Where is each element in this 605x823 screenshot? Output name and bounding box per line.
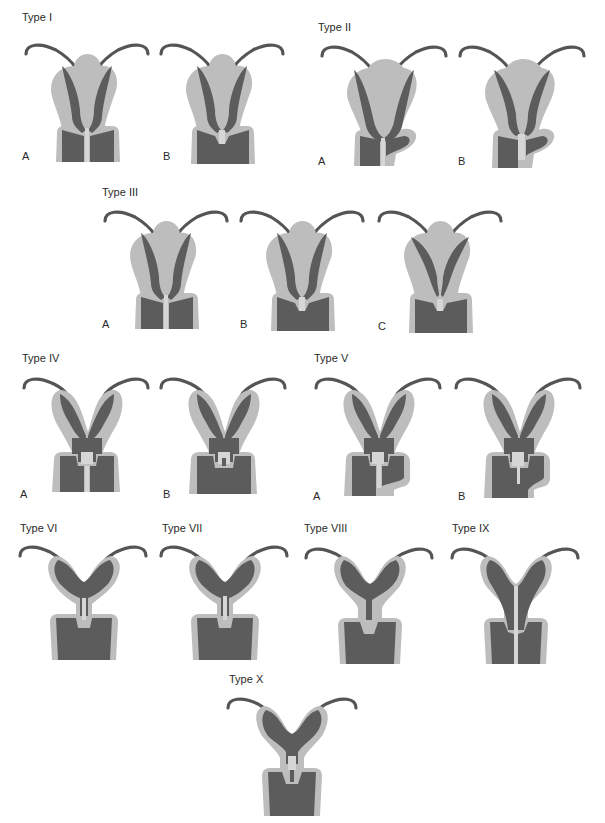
type-4b-label: B bbox=[163, 488, 170, 500]
type-4-title: Type IV bbox=[22, 352, 59, 364]
type-2b-diagram bbox=[456, 42, 591, 167]
type-3c-diagram bbox=[375, 205, 505, 330]
type-4b-diagram bbox=[157, 372, 292, 496]
type-2a-label: A bbox=[318, 155, 325, 167]
type-2a-diagram bbox=[318, 42, 453, 167]
type-5b-diagram bbox=[452, 372, 587, 499]
type-3c-label: C bbox=[378, 320, 386, 332]
type-1a-diagram bbox=[22, 38, 152, 163]
type-7-diagram bbox=[157, 540, 292, 662]
type-5-title: Type V bbox=[314, 352, 348, 364]
type-8-diagram bbox=[302, 540, 437, 665]
type-5a-label: A bbox=[313, 490, 320, 502]
type-1a-label: A bbox=[22, 150, 29, 162]
type-4a-label: A bbox=[20, 488, 27, 500]
type-1-title: Type I bbox=[22, 11, 52, 23]
type-4a-diagram bbox=[20, 372, 155, 494]
type-10-diagram bbox=[224, 690, 362, 818]
type-9-diagram bbox=[448, 540, 583, 665]
type-5b-label: B bbox=[458, 490, 465, 502]
type-6-diagram bbox=[16, 540, 151, 662]
type-1b-diagram bbox=[157, 38, 287, 163]
type-9-title: Type IX bbox=[452, 522, 489, 534]
type-1b-label: B bbox=[163, 150, 170, 162]
type-2-title: Type II bbox=[318, 21, 351, 33]
type-8-title: Type VIII bbox=[304, 522, 347, 534]
type-6-title: Type VI bbox=[20, 522, 57, 534]
type-3b-label: B bbox=[240, 318, 247, 330]
type-10-title: Type X bbox=[229, 673, 263, 685]
type-3-title: Type III bbox=[102, 186, 138, 198]
type-3a-label: A bbox=[102, 318, 109, 330]
type-3b-diagram bbox=[237, 205, 367, 330]
type-7-title: Type VII bbox=[162, 522, 202, 534]
type-2b-label: B bbox=[458, 155, 465, 167]
type-3a-diagram bbox=[101, 205, 231, 330]
type-5a-diagram bbox=[312, 372, 447, 497]
